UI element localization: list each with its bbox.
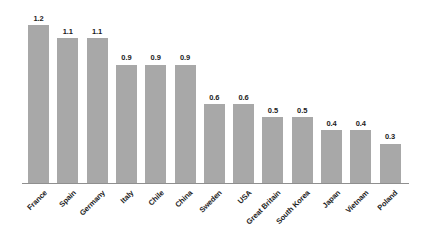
bar-group: 0.4 [350, 130, 371, 183]
bar-chart: 1.21.11.10.90.90.90.60.60.50.50.40.40.3 … [0, 0, 422, 246]
bar-group: 0.5 [262, 117, 283, 183]
x-axis-category-labels: FranceSpainGermanyItalyChileChinaSwedenU… [0, 184, 422, 246]
bar-value-label: 0.6 [209, 94, 219, 102]
x-axis-label: Chile [147, 189, 165, 207]
bar-value-label: 0.9 [180, 54, 190, 62]
x-axis-label: France [26, 189, 48, 211]
bar-group: 1.2 [28, 25, 49, 183]
bar-value-label: 0.6 [239, 94, 249, 102]
bar [292, 117, 313, 183]
bar-value-label: 1.2 [33, 15, 43, 23]
bar [204, 104, 225, 183]
bar [116, 65, 137, 183]
bar [57, 38, 78, 183]
bar-group: 0.3 [380, 144, 401, 183]
x-axis-label: Vietnam [344, 189, 370, 215]
bar-value-label: 0.5 [268, 107, 278, 115]
x-axis-label: Sweden [199, 189, 224, 214]
x-axis-label: USA [236, 189, 252, 205]
bar-group: 0.9 [175, 65, 196, 183]
bar-group: 1.1 [87, 38, 108, 183]
x-axis-label: Germany [79, 189, 107, 217]
bar-group: 1.1 [57, 38, 78, 183]
bar [321, 130, 342, 183]
bar-value-label: 0.3 [385, 133, 395, 141]
bar [262, 117, 283, 183]
bar-value-label: 1.1 [63, 28, 73, 36]
bar [233, 104, 254, 183]
bar-group: 0.6 [233, 104, 254, 183]
plot-area: 1.21.11.10.90.90.90.60.60.50.50.40.40.3 [0, 0, 422, 184]
bar [380, 144, 401, 183]
x-axis-label: China [174, 189, 194, 209]
bar [87, 38, 108, 183]
bar-group: 0.6 [204, 104, 225, 183]
x-axis-label: Poland [376, 189, 399, 212]
bar-value-label: 0.4 [326, 120, 336, 128]
bar-group: 0.5 [292, 117, 313, 183]
bar-group: 0.4 [321, 130, 342, 183]
x-axis-label: Italy [120, 189, 136, 205]
x-axis-label: Spain [58, 189, 78, 209]
bar-value-label: 1.1 [92, 28, 102, 36]
bar-value-label: 0.4 [356, 120, 366, 128]
bar [175, 65, 196, 183]
bar [28, 25, 49, 183]
bar-value-label: 0.5 [297, 107, 307, 115]
bar-value-label: 0.9 [121, 54, 131, 62]
x-axis-label: Japan [321, 189, 341, 209]
bar [350, 130, 371, 183]
bar [145, 65, 166, 183]
bar-group: 0.9 [145, 65, 166, 183]
bar-group: 0.9 [116, 65, 137, 183]
bar-value-label: 0.9 [151, 54, 161, 62]
